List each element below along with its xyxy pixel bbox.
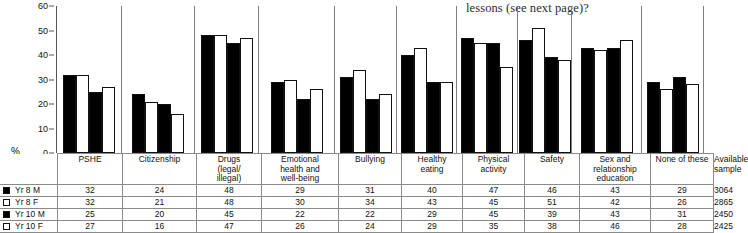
table-cell: 46 [525, 185, 580, 197]
table-column-header-bullying: Bullying [339, 154, 402, 185]
table-cell: 26 [262, 221, 339, 233]
legend-swatch-icon [3, 187, 10, 194]
table-cell: 29 [651, 185, 714, 197]
bar [519, 40, 532, 153]
table-cell: 45 [463, 209, 525, 221]
legend-entry-yr-8-m: Yr 8 M [0, 185, 58, 197]
table-corner-cell [0, 154, 58, 185]
bar-group-bars [572, 6, 641, 153]
table-cell: 47 [197, 221, 262, 233]
bar-group-bars [259, 6, 334, 153]
bar [594, 50, 607, 153]
bar [379, 94, 392, 153]
bar-group [396, 6, 456, 153]
y-axis-tick-label: 20 [38, 100, 48, 109]
bar [660, 89, 673, 153]
y-axis-tick-label: 50 [38, 26, 48, 35]
table-column-header-line: PSHE [58, 155, 122, 165]
table-body: Yr 8 M322448293140474643293064Yr 8 F3221… [0, 185, 714, 233]
table-cell: 46 [580, 221, 651, 233]
bar-group [334, 6, 396, 153]
y-axis-tick-mark [49, 79, 54, 80]
legend-label: Yr 8 M [15, 186, 40, 196]
bar [545, 57, 558, 153]
table-cell: 48 [197, 197, 262, 209]
table-row: Yr 8 F322148303443455142262865 [0, 197, 714, 209]
table-cell: 39 [525, 209, 580, 221]
table-column-header-physical: Physicalactivity [463, 154, 525, 185]
bar [240, 38, 253, 153]
table-header-row: PSHECitizenshipDrugs(legal/illegal)Emoti… [0, 154, 714, 185]
bar [440, 82, 453, 153]
y-axis-tick-mark [49, 128, 54, 129]
table-cell: 22 [339, 209, 402, 221]
bar [310, 89, 323, 153]
table-column-header-emotional: Emotionalhealth andwell-being [262, 154, 339, 185]
table-column-header-line: well-being [262, 174, 338, 184]
legend-swatch-icon [3, 223, 10, 230]
bar [461, 38, 474, 153]
bar [171, 114, 184, 153]
bar-group-bars [122, 6, 194, 153]
legend-swatch-icon [3, 211, 10, 218]
bar [201, 35, 214, 153]
y-axis-tick-label: 30 [38, 75, 48, 84]
table-column-header-line: Bullying [339, 155, 401, 165]
bar-group [57, 6, 121, 153]
bar [607, 48, 620, 153]
table-cell: 40 [402, 185, 463, 197]
table-cell: 48 [197, 185, 262, 197]
bar [366, 99, 379, 153]
table-cell: 24 [123, 185, 197, 197]
bar [297, 99, 310, 153]
table-column-header-line: education [580, 174, 650, 184]
table-cell: 20 [123, 209, 197, 221]
y-axis-tick-label: 60 [38, 2, 48, 11]
table-header: PSHECitizenshipDrugs(legal/illegal)Emoti… [0, 154, 714, 185]
bar [214, 35, 227, 153]
bar [76, 75, 89, 153]
table-cell: 45 [463, 197, 525, 209]
bar [63, 75, 76, 153]
table-cell: 34 [339, 197, 402, 209]
table-cell: 26 [651, 197, 714, 209]
table-column-header-none: None of these [651, 154, 714, 185]
legend-label: Yr 10 F [15, 222, 43, 232]
bar [132, 94, 145, 153]
table-cell: 29 [262, 185, 339, 197]
plot-area [57, 6, 653, 153]
bar [532, 28, 545, 153]
table-cell: 43 [580, 185, 651, 197]
table-column-header-line: None of these [651, 155, 713, 165]
bar-group-bars [642, 6, 703, 153]
table-cell: 25 [58, 209, 123, 221]
legend-entry-yr-10-m: Yr 10 M [0, 209, 58, 221]
bar-group [456, 6, 517, 153]
table-column-header-citizenship: Citizenship [123, 154, 197, 185]
legend-entry-yr-8-f: Yr 8 F [0, 197, 58, 209]
table-cell: 51 [525, 197, 580, 209]
table-cell: 42 [580, 197, 651, 209]
bar-group [641, 6, 703, 153]
bar [158, 104, 171, 153]
bar-group-bars [518, 6, 571, 153]
table-column-header-safety: Safety [525, 154, 580, 185]
table-cell: 21 [123, 197, 197, 209]
bar-group-bars [397, 6, 456, 153]
bar-group [121, 6, 194, 153]
table-cell: 32 [58, 197, 123, 209]
table-row: Yr 10 F271647262429353846282425 [0, 221, 714, 233]
data-table: PSHECitizenshipDrugs(legal/illegal)Emoti… [0, 153, 714, 233]
table-row: Yr 10 M252045222229453943312450 [0, 209, 714, 221]
bar [353, 70, 366, 153]
y-axis-tick-label: 10 [38, 124, 48, 133]
table-cell: 16 [123, 221, 197, 233]
bar [474, 43, 487, 153]
bar-group-empty [703, 6, 704, 153]
bar [647, 82, 660, 153]
table-column-header-line: illegal) [197, 174, 261, 184]
table-cell: 32 [58, 185, 123, 197]
table-cell: 31 [339, 185, 402, 197]
y-axis-tick-label: 40 [38, 51, 48, 60]
bar [89, 92, 102, 153]
